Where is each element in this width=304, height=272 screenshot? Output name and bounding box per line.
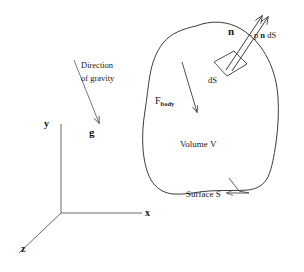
x-axis-label: x bbox=[145, 207, 150, 219]
pressure-force-prefix: - p bbox=[249, 30, 260, 40]
gravity-direction-label-line2: of gravity bbox=[81, 74, 114, 84]
body-force-arrow bbox=[182, 62, 197, 112]
gravity-vector-label: g bbox=[89, 126, 95, 139]
body-force-subscript: body bbox=[161, 100, 175, 107]
fluid-control-volume-diagram: y x z Direction of gravity g n - p n dS … bbox=[0, 0, 304, 272]
pressure-force-label: - p n dS bbox=[249, 31, 276, 41]
volume-label: Volume V bbox=[180, 139, 216, 149]
z-axis-label: z bbox=[21, 243, 25, 255]
surface-label: Surface S bbox=[186, 189, 221, 199]
normal-vector-label: n bbox=[228, 25, 234, 38]
coordinate-axes bbox=[19, 124, 142, 253]
body-force-symbol: F bbox=[155, 95, 161, 106]
pressure-force-arrow bbox=[232, 17, 268, 71]
surface-element-label: dS bbox=[208, 76, 217, 86]
gravity-direction-label-line1: Direction bbox=[81, 61, 113, 71]
pressure-force-suffix: dS bbox=[265, 30, 276, 40]
body-force-label: Fbody bbox=[155, 95, 174, 107]
y-axis-label: y bbox=[44, 118, 49, 130]
control-volume-outline bbox=[143, 22, 279, 194]
